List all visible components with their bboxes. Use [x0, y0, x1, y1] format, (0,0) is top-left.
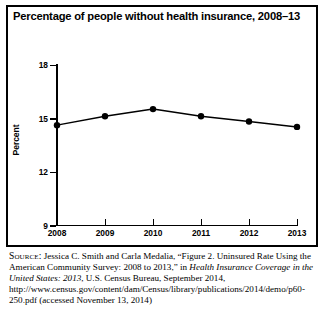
chart-title: Percentage of people without health insu… — [13, 10, 309, 23]
source-note: Source: Jessica C. Smith and Carla Medal… — [9, 250, 321, 306]
figure-container: Percentage of people without health insu… — [0, 0, 329, 320]
source-label: Source: — [9, 250, 41, 261]
chart-frame — [6, 5, 318, 247]
